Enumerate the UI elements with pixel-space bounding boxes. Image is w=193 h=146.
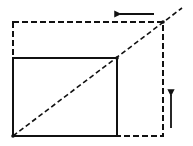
scaled-corner-marker (161, 20, 165, 24)
origin-corner-marker (11, 134, 15, 138)
original-corner-marker (115, 56, 119, 60)
diagonal-line (13, 8, 182, 136)
scaling-diagram (0, 0, 193, 146)
